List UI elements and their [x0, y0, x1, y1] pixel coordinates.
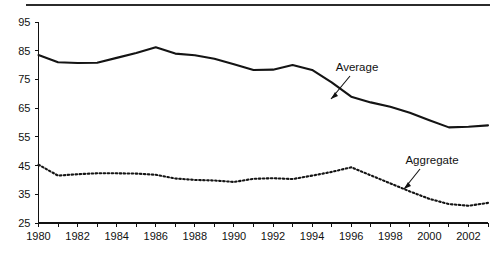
- annotation-arrowhead-average: [331, 92, 338, 99]
- x-axis-tick-labels: 1980198219841986198819901992199419961998…: [26, 230, 480, 242]
- x-axis: 1980198219841986198819901992199419961998…: [26, 223, 488, 242]
- y-tick-label: 85: [18, 45, 30, 57]
- y-axis-ticks: [35, 22, 39, 223]
- series-line-average: [39, 47, 489, 127]
- y-tick-label: 95: [18, 16, 30, 28]
- annotation-arrowhead-aggregate: [404, 182, 411, 189]
- y-tick-label: 35: [18, 188, 30, 200]
- x-tick-label: 2000: [417, 230, 441, 242]
- x-tick-label: 2002: [456, 230, 480, 242]
- x-axis-ticks: [39, 223, 489, 227]
- x-tick-label: 1998: [378, 230, 402, 242]
- y-tick-label: 55: [18, 131, 30, 143]
- x-tick-label: 1988: [183, 230, 207, 242]
- annotation-label-aggregate: Aggregate: [405, 154, 458, 166]
- x-tick-label: 1990: [222, 230, 246, 242]
- annotation-label-average: Average: [336, 61, 379, 73]
- x-tick-label: 1982: [65, 230, 89, 242]
- y-tick-label: 65: [18, 102, 30, 114]
- annotation-average: Average: [331, 61, 378, 99]
- y-axis: 9585756555453525: [18, 16, 38, 229]
- chart-container: 9585756555453525 19801982198419861988199…: [0, 0, 504, 255]
- y-tick-label: 25: [18, 217, 30, 229]
- x-tick-label: 1986: [144, 230, 168, 242]
- x-tick-label: 1984: [104, 230, 128, 242]
- annotation-aggregate: Aggregate: [404, 154, 459, 189]
- x-tick-label: 1994: [300, 230, 324, 242]
- x-tick-label: 1996: [339, 230, 363, 242]
- y-axis-tick-labels: 9585756555453525: [18, 16, 30, 229]
- x-tick-label: 1980: [26, 230, 50, 242]
- series-line-aggregate: [39, 165, 489, 206]
- x-tick-label: 1992: [261, 230, 285, 242]
- line-chart: 9585756555453525 19801982198419861988199…: [0, 0, 504, 255]
- y-tick-label: 45: [18, 160, 30, 172]
- y-tick-label: 75: [18, 73, 30, 85]
